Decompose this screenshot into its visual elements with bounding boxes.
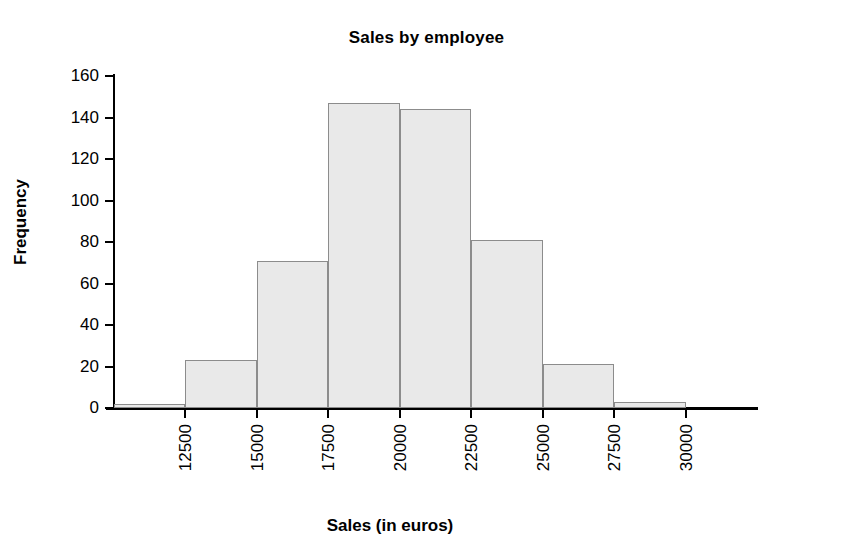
x-axis-tick-label: 25000 — [534, 424, 552, 502]
histogram-bar — [471, 240, 542, 408]
histogram-bar — [614, 402, 685, 408]
y-axis-tick-label-wrap: 100 — [46, 191, 99, 209]
y-axis-tick-label-wrap: 160 — [46, 66, 99, 84]
y-axis-tick-label-wrap: 20 — [46, 357, 99, 375]
x-axis-tick-label: 15000 — [248, 424, 266, 502]
y-axis-tick-label: 140 — [53, 108, 99, 128]
y-axis-tick — [105, 324, 114, 326]
y-axis-title: Frequency — [11, 157, 31, 287]
x-axis-tick-label-text: 25000 — [534, 424, 551, 471]
y-axis-tick — [105, 283, 114, 285]
x-axis-tick-label: 12500 — [176, 424, 194, 502]
y-axis-tick-label-wrap: 120 — [46, 149, 99, 167]
x-axis-tick — [470, 408, 472, 418]
plot-area — [114, 76, 757, 408]
histogram-bars — [114, 76, 757, 408]
y-axis-tick-label: 160 — [53, 66, 99, 86]
y-axis-tick — [105, 117, 114, 119]
y-axis-tick-label-wrap: 0 — [46, 398, 99, 416]
y-axis-tick — [105, 241, 114, 243]
x-axis-tick-label: 27500 — [605, 424, 623, 502]
y-axis-tick — [105, 75, 114, 77]
histogram-bar — [328, 103, 399, 408]
y-axis-tick — [105, 366, 114, 368]
y-axis-tick-label: 120 — [53, 149, 99, 169]
y-axis-tick — [105, 158, 114, 160]
y-axis-tick-label: 0 — [53, 398, 99, 418]
x-axis-tick-label: 20000 — [391, 424, 409, 502]
y-axis-tick-label-wrap: 60 — [46, 274, 99, 292]
x-axis-tick-label: 17500 — [319, 424, 337, 502]
x-axis-tick-label-text: 15000 — [248, 424, 265, 471]
x-axis-tick — [542, 408, 544, 418]
x-axis-tick-label-text: 17500 — [320, 424, 337, 471]
y-axis-tick-label: 80 — [53, 232, 99, 252]
x-axis-tick — [685, 408, 687, 418]
x-axis-tick-label: 30000 — [677, 424, 695, 502]
y-axis-tick-label-wrap: 140 — [46, 108, 99, 126]
x-axis-tick-label-text: 22500 — [463, 424, 480, 471]
chart-title: Sales by employee — [0, 28, 853, 48]
y-axis-tick-label-wrap: 80 — [46, 232, 99, 250]
x-axis-title: Sales (in euros) — [0, 516, 780, 536]
histogram-figure: Sales by employee Frequency Sales (in eu… — [0, 0, 853, 555]
x-axis-tick — [256, 408, 258, 418]
x-axis-tick — [184, 408, 186, 418]
histogram-bar — [257, 261, 328, 408]
y-axis-tick-label: 20 — [53, 357, 99, 377]
histogram-bar — [114, 404, 185, 408]
y-axis-tick-label-wrap: 40 — [46, 315, 99, 333]
y-axis-tick — [105, 200, 114, 202]
x-axis-tick — [327, 408, 329, 418]
x-axis-tick-label-text: 27500 — [606, 424, 623, 471]
histogram-bar — [400, 109, 471, 408]
x-axis-tick — [613, 408, 615, 418]
y-axis-tick-label: 100 — [53, 191, 99, 211]
x-axis-tick — [399, 408, 401, 418]
x-axis-tick-label-text: 30000 — [677, 424, 694, 471]
histogram-bar — [543, 364, 614, 408]
y-axis-tick-label: 60 — [53, 274, 99, 294]
histogram-bar — [185, 360, 256, 408]
x-axis-tick-label: 22500 — [462, 424, 480, 502]
x-axis-tick-label-text: 20000 — [391, 424, 408, 471]
y-axis-tick — [105, 407, 114, 409]
y-axis-tick-label: 40 — [53, 315, 99, 335]
x-axis-tick-label-text: 12500 — [177, 424, 194, 471]
